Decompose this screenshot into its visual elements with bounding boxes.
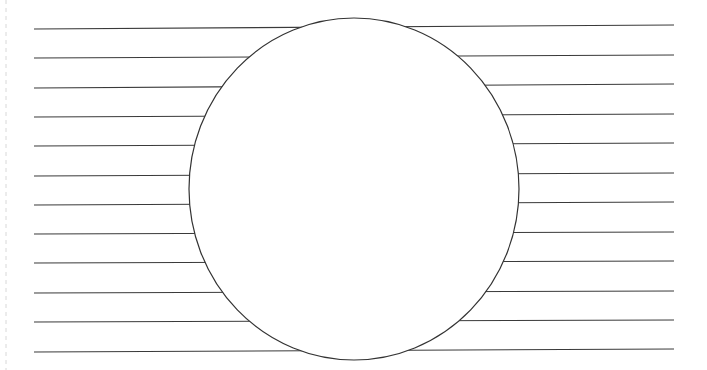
lined-circle-diagram [0, 0, 707, 370]
central-circle [189, 18, 519, 360]
